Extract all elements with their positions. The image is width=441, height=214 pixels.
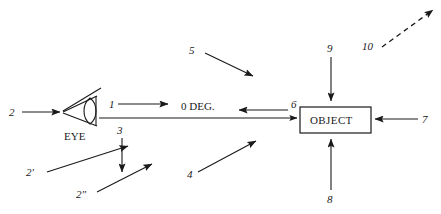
diagram-canvas: EYE 0 DEG. OBJECT 1 2 2' 2" <box>0 0 441 214</box>
callout-2-double-prime: 2" <box>76 164 152 200</box>
eye-lower-line <box>63 113 97 126</box>
object-label: OBJECT <box>310 114 353 126</box>
callout-5-arrow <box>205 53 253 76</box>
callout-1-label: 1 <box>109 98 115 110</box>
callout-7-label: 7 <box>422 113 428 125</box>
callout-9: 9 <box>327 42 333 101</box>
callout-9-label: 9 <box>327 42 333 54</box>
callout-2-double-prime-label: 2" <box>76 188 87 200</box>
object-box: OBJECT <box>300 107 371 133</box>
callout-5: 5 <box>189 44 253 76</box>
eye-lens-icon <box>84 98 96 124</box>
angle-label: 0 DEG. <box>181 100 215 112</box>
callout-1: 1 <box>109 98 168 110</box>
callout-3: 3 <box>116 124 123 172</box>
callout-8: 8 <box>327 139 333 205</box>
eye-upper-line <box>63 96 97 112</box>
callout-6: 6 <box>239 98 297 110</box>
callout-2-prime-arrow <box>47 146 128 172</box>
eye-label: EYE <box>64 130 86 142</box>
callout-5-label: 5 <box>189 44 195 56</box>
callout-10-label: 10 <box>362 40 374 52</box>
callout-4: 4 <box>187 141 256 180</box>
callout-2-label: 2 <box>9 106 15 118</box>
callout-3-label: 3 <box>116 124 123 136</box>
callout-2-double-prime-arrow <box>97 164 152 192</box>
callout-7: 7 <box>375 113 428 125</box>
callout-4-arrow <box>198 141 256 172</box>
callout-2-prime-label: 2' <box>26 166 35 178</box>
callout-10: 10 <box>362 10 433 52</box>
callout-4-label: 4 <box>187 168 193 180</box>
callout-2: 2 <box>9 106 60 118</box>
technical-diagram: EYE 0 DEG. OBJECT 1 2 2' 2" <box>0 0 441 214</box>
callout-2-prime: 2' <box>26 146 128 178</box>
callout-8-label: 8 <box>327 193 333 205</box>
eye-symbol: EYE <box>63 88 101 142</box>
callout-6-label: 6 <box>291 98 297 110</box>
callout-10-arrow <box>382 10 433 47</box>
